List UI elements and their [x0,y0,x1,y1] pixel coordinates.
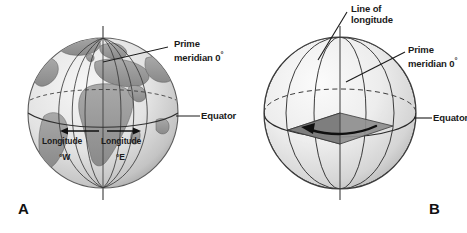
label-prime-meridian-b-line1: Prime [408,44,434,55]
label-longitude-west: Longitude [42,136,82,146]
label-equator-b: Equator [433,112,467,123]
label-longitude-east: Longitude [101,136,141,146]
label-longitude-east-degree: °E [116,152,125,162]
panel-a-illustration [0,0,233,233]
label-longitude-west-line1: Longitude [42,136,82,146]
label-prime-meridian-b-line2: meridian 0 [408,58,455,69]
degree-symbol-icon-a: ° [221,50,224,59]
label-prime-meridian-b: Prime meridian 0° [408,44,457,69]
label-prime-meridian-a-line2: meridian 0 [174,52,221,63]
label-line-of-longitude: Line of longitude [351,3,393,25]
label-line-of-longitude-line1: Line of [351,3,381,14]
label-line-of-longitude-line2: longitude [351,14,393,25]
panel-letter-b: B [429,200,440,217]
label-prime-meridian-a: Prime meridian 0° [174,38,223,63]
panel-letter-a: A [18,200,29,217]
degree-symbol-icon-b: ° [455,56,458,65]
panel-b-schematic-sphere: Line of longitude Prime meridian 0° Equa… [233,0,467,233]
figure-longitude-diagram: Prime meridian 0° Equator Longitude °W L… [0,0,467,233]
panel-b-illustration [233,0,467,233]
label-longitude-east-line1: Longitude [101,136,141,146]
label-longitude-west-degree: °W [59,152,70,162]
panel-a-earth-globe: Prime meridian 0° Equator Longitude °W L… [0,0,233,233]
label-prime-meridian-a-line1: Prime [174,38,200,49]
label-equator-a: Equator [201,110,236,121]
